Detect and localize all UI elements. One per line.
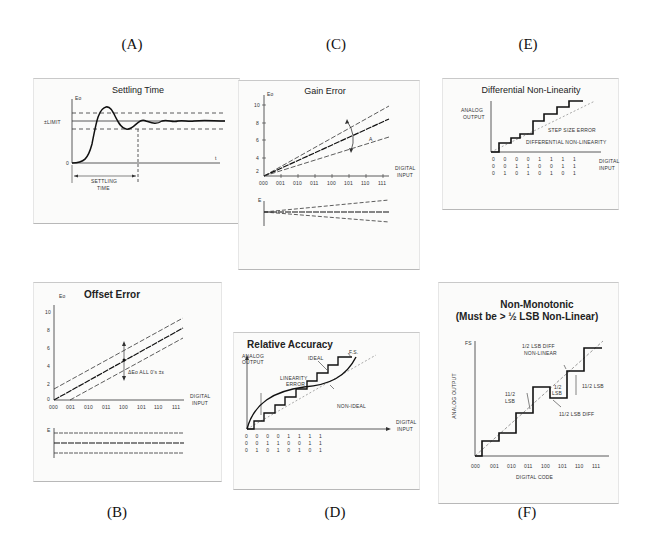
x-axis-label-2: INPUT <box>192 400 208 406</box>
fs-label: FS <box>465 340 472 346</box>
x-tick: 011 <box>310 180 319 186</box>
y-axis-label: Eo <box>59 293 66 299</box>
x-tick: 101 <box>558 463 567 469</box>
panel-label-f: (F) <box>518 504 536 521</box>
y-axis-label-2: OUTPUT <box>463 114 485 120</box>
y-tick-8: 8 <box>256 120 259 126</box>
panel-settling-time: Settling Time Eo ±LIMIT 0 t SETTLING TIM… <box>33 78 240 224</box>
x-axis-label: DIGITAL <box>396 419 416 425</box>
y-tick-4: 4 <box>47 363 50 369</box>
panel-offset-error: Offset Error Eo 10 8 6 4 2 0 000 001 010… <box>33 282 222 482</box>
y-tick-6: 6 <box>47 345 50 351</box>
x-tick: 000 <box>49 404 58 410</box>
panel-label-e: (E) <box>518 36 537 53</box>
x-tick: 101 <box>137 404 146 410</box>
x-tick: 110 <box>575 463 584 469</box>
settling-label-time: TIME <box>97 185 110 191</box>
error-axis-label: E <box>258 197 262 203</box>
y-axis-label: ANALOG OUTPUT <box>451 373 457 418</box>
x-axis-label-2: INPUT <box>397 426 413 432</box>
x-tick: 010 <box>293 180 302 186</box>
panel-gain-error: Gain Error Eo 10 8 6 4 2 000 001 010 011… <box>238 80 420 270</box>
x-tick: 111 <box>592 463 600 469</box>
x-tick: 000 <box>259 180 268 186</box>
ideal-label: IDEAL <box>308 355 323 361</box>
settling-label: SETTLING <box>91 178 117 184</box>
x-tick: 001 <box>490 463 499 469</box>
settling-time-plot <box>34 79 239 223</box>
x-tick: 001 <box>276 180 285 186</box>
zero-label: 0 <box>66 160 69 166</box>
lsb-112-annotation: 11/2 <box>505 391 515 397</box>
x-tick: 110 <box>154 404 163 410</box>
gain-error-plot <box>239 81 419 269</box>
panel-label-a: (A) <box>122 36 143 53</box>
y-axis-label-2: OUTPUT <box>242 359 264 365</box>
offset-error-plot <box>34 283 221 481</box>
panel-label-b: (B) <box>107 504 127 521</box>
x-tick: 110 <box>361 180 370 186</box>
y-tick-4: 4 <box>256 155 259 161</box>
annotation-a: A <box>369 136 373 142</box>
x-tick: 111 <box>172 404 180 410</box>
x-tick: 010 <box>507 463 516 469</box>
y-tick-2: 2 <box>47 381 50 387</box>
y-tick-2: 2 <box>256 168 259 174</box>
offset-annotation: ΔEo ALL 0's ±ε <box>128 369 164 375</box>
x-tick: 011 <box>102 404 111 410</box>
lsb-112-annotation-2: LSB <box>505 398 515 404</box>
x-axis-label: DIGITAL <box>395 165 415 171</box>
panel-label-d: (D) <box>325 504 346 521</box>
limit-label: ±LIMIT <box>44 119 61 125</box>
panel-non-monotonic: Non-Monotonic (Must be > ½ LSB Non-Linea… <box>438 282 619 504</box>
x-tick: 011 <box>524 463 533 469</box>
y-tick-0: 0 <box>47 396 50 402</box>
diff-annotation: 1/2 LSB DIFF <box>522 343 555 349</box>
lsb-112-diff-annotation: 11/2 LSB DIFF <box>559 411 594 417</box>
y-tick-8: 8 <box>47 327 50 333</box>
y-axis-label: ANALOG <box>461 107 483 113</box>
panel-label-c: (C) <box>326 36 346 53</box>
x-tick: 100 <box>327 180 336 186</box>
y-tick-10: 10 <box>254 102 260 108</box>
x-axis-label: DIGITAL <box>599 158 619 164</box>
non-monotonic-plot <box>439 283 618 503</box>
lsb-112-right-annotation: 11/2 LSB <box>582 383 604 389</box>
y-tick-10: 10 <box>45 309 51 315</box>
x-axis-label-2: INPUT <box>599 165 615 171</box>
fs-label: F.S. <box>349 349 358 355</box>
x-tick: 111 <box>378 180 386 186</box>
diff-annotation-2: NON-LINEAR <box>524 350 557 356</box>
y-axis-label: Eo <box>75 95 82 101</box>
non-ideal-label: NON-IDEAL <box>337 403 366 409</box>
error-axis-label: E <box>47 427 51 433</box>
x-axis-label: DIGITAL CODE <box>516 474 553 480</box>
x-tick: 100 <box>541 463 550 469</box>
panel-relative-accuracy: Relative Accuracy ANALOG OUTPUT IDEAL F.… <box>233 332 420 490</box>
linearity-error-label-2: ERROR <box>286 381 305 387</box>
x-tick: 000 <box>471 463 480 469</box>
x-tick: 010 <box>84 404 93 410</box>
x-axis-label-2: INPUT <box>397 172 413 178</box>
y-axis-label: Eo <box>267 91 274 97</box>
lsb-12-annotation-2: LSB <box>552 390 562 396</box>
step-size-error-label: STEP SIZE ERROR <box>548 127 596 133</box>
x-axis-label: t <box>215 155 217 161</box>
x-tick: 100 <box>119 404 128 410</box>
x-axis-label: DIGITAL <box>190 393 210 399</box>
x-tick: 001 <box>66 404 75 410</box>
panel-differential-non-linearity: Differential Non-Linearity ANALOG OUTPUT… <box>442 78 619 210</box>
x-tick: 101 <box>344 180 353 186</box>
y-tick-6: 6 <box>256 137 259 143</box>
dnl-label: DIFFERENTIAL NON-LINEARITY <box>526 139 607 145</box>
